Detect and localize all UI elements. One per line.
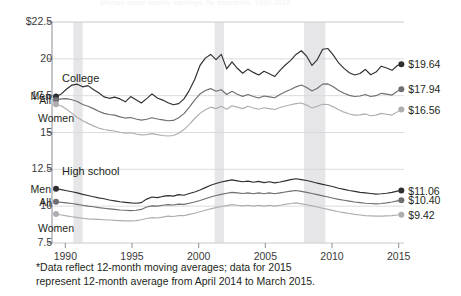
series-line-high-school-men: [56, 179, 401, 203]
series-tag-high-school-women: Women: [38, 222, 108, 234]
series-end-dot-high-school-men: [398, 188, 404, 194]
series-end-dot-high-school-women: [398, 212, 404, 218]
y-tick-label-6: 7.5: [6, 237, 52, 247]
chart-container: Median usual weekly earnings, by educati…: [0, 0, 461, 296]
chart-footnote: *Data reflect 12-month moving averages; …: [36, 261, 456, 288]
series-line-high-school-women: [56, 203, 401, 221]
y-tick-label-3: 15: [6, 127, 52, 137]
series-start-dot-college-women: [53, 101, 59, 107]
series-end-dot-college-women: [398, 107, 404, 113]
y-tick-label-1: 20: [6, 53, 52, 63]
series-tag-high-school-men: Men: [0, 183, 51, 195]
panel-title-high-school: High school: [62, 165, 119, 177]
series-tag-college-women: Women: [38, 112, 108, 124]
series-line-high-school-all: [56, 191, 401, 211]
end-value-label-college-women: $16.56: [408, 104, 440, 116]
series-start-dot-high-school-men: [53, 186, 59, 192]
end-value-label-college-all: $17.94: [408, 83, 440, 95]
footnote-line-1: *Data reflect 12-month moving averages; …: [36, 261, 456, 275]
series-start-dot-high-school-women: [53, 211, 59, 217]
y-tick-label-4: 12.5: [6, 163, 52, 173]
series-end-dot-high-school-all: [398, 197, 404, 203]
y-tick-label-0: $22.5: [6, 16, 52, 26]
end-value-label-college-men: $19.64: [408, 58, 440, 70]
series-tag-high-school-all: All: [0, 196, 51, 208]
end-value-label-high-school-women: $9.42: [408, 209, 434, 221]
series-end-dot-college-men: [398, 61, 404, 67]
series-line-college-men: [56, 49, 401, 105]
series-start-dot-high-school-all: [53, 199, 59, 205]
end-value-label-high-school-all: $10.40: [408, 194, 440, 206]
series-tag-college-all: All: [0, 94, 51, 106]
panel-title-college: College: [62, 72, 99, 84]
series-end-dot-college-all: [398, 86, 404, 92]
footnote-line-2: represent 12-month average from April 20…: [36, 275, 456, 289]
